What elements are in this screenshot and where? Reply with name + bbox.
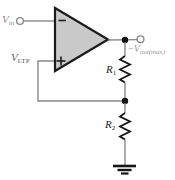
resistor-r1-symbol (120, 56, 130, 83)
r2-label-base: R (105, 118, 112, 130)
vin-label-sub: in (9, 19, 14, 27)
r1-label-base: R (106, 63, 113, 75)
vltp-label-sub: LTP (18, 57, 30, 65)
vout-label-sub: out(max) (140, 48, 165, 56)
vout-label: −Vout(max) (128, 44, 165, 56)
output-terminal-circle (137, 36, 144, 43)
vltp-label: VLTP (11, 52, 30, 65)
vin-label: Vin (2, 14, 14, 27)
vin-terminal-circle (17, 18, 24, 25)
r1-label: R1 (106, 64, 116, 77)
r1-label-sub: 1 (113, 69, 117, 77)
vin-label-base: V (2, 13, 9, 25)
circuit-diagram: Vin VLTP −Vout(max) R1 R2 (0, 0, 175, 180)
vltp-label-base: V (11, 51, 18, 63)
r2-label: R2 (105, 119, 115, 132)
resistor-r2-symbol (120, 113, 130, 140)
ground-icon (113, 166, 136, 174)
r2-label-sub: 2 (112, 124, 116, 132)
schematic-svg (0, 0, 175, 180)
